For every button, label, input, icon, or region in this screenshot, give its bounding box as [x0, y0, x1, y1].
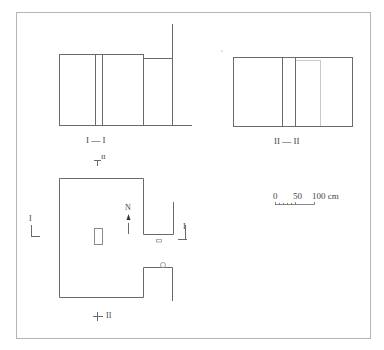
section-1-marker-icon	[94, 160, 101, 166]
north-arrow-icon	[127, 214, 131, 234]
section-1-drawing	[60, 24, 193, 126]
plan-feature-rect	[95, 229, 103, 245]
plan-marker-bottom-icon	[93, 312, 103, 321]
section-2-drawing	[234, 58, 353, 127]
plan-marker-bottom-label: II	[106, 312, 111, 320]
plan-marker-left-label: I	[29, 215, 32, 223]
plan-marker-right-label: I	[183, 223, 186, 231]
stray-dot	[221, 50, 222, 51]
plan-marker-left-icon	[32, 225, 41, 237]
diagram-canvas	[0, 0, 384, 350]
plan-small-circle	[161, 263, 166, 268]
frame-border	[17, 13, 371, 339]
section-1-title: I — I	[86, 136, 106, 145]
scale-bar-icon	[275, 202, 315, 205]
plan-small-feature	[157, 240, 162, 243]
scale-label-50: 50	[293, 192, 302, 201]
scale-label-0: 0	[273, 192, 278, 201]
scale-label-100: 100 cm	[312, 192, 339, 201]
north-label: N	[125, 204, 131, 212]
section-2-title: II — II	[274, 137, 300, 146]
section-2-inner-outline	[296, 61, 321, 127]
section-1-marker-label: II	[101, 154, 106, 161]
